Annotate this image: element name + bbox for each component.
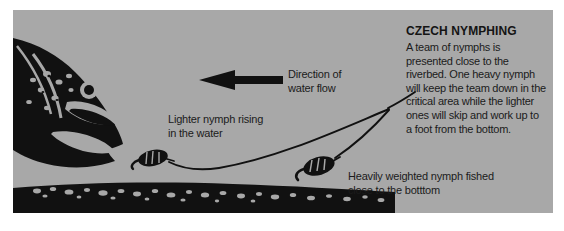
- label-lighter-nymph: Lighter nymph rising in the water: [168, 113, 263, 140]
- light-nymph-fly: [132, 147, 174, 169]
- panel-body-copy: A team of nymphs is presented close to t…: [406, 41, 546, 136]
- trout-head-silhouette: [13, 34, 123, 167]
- label-water-flow: Direction of water flow: [288, 68, 341, 95]
- figure-screenshot: CZECH NYMPHING A team of nymphs is prese…: [0, 0, 564, 231]
- label-heavy-nymph: Heavily weighted nymph fished close to t…: [348, 170, 494, 197]
- heavy-nymph-fly: [296, 153, 340, 180]
- panel-heading: CZECH NYMPHING: [406, 24, 517, 38]
- pebble-streambed-band: [13, 183, 395, 213]
- illustration-panel: CZECH NYMPHING A team of nymphs is prese…: [13, 10, 553, 213]
- left-pointing-flow-arrow: [199, 70, 283, 90]
